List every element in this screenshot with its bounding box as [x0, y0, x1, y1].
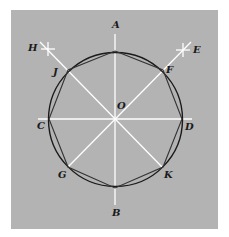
- label-H: H: [27, 42, 38, 53]
- label-K: K: [163, 169, 174, 180]
- label-D: D: [184, 121, 194, 132]
- label-A: A: [111, 19, 120, 30]
- label-C: C: [37, 120, 45, 131]
- label-G: G: [58, 169, 67, 180]
- label-B: B: [111, 207, 120, 218]
- label-F: F: [165, 64, 174, 75]
- label-E: E: [192, 44, 201, 55]
- label-O: O: [117, 100, 126, 111]
- octagon-construction-diagram: A B C D E F G H J K O: [0, 0, 229, 237]
